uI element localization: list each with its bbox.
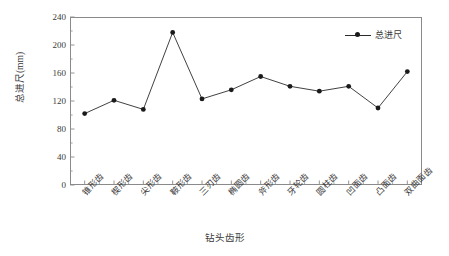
x-axis-tick-label: 三刃齿 (197, 171, 223, 197)
x-axis-tick-label: 凸面齿 (373, 171, 399, 197)
x-axis-tick-label: 尖形齿 (138, 171, 164, 197)
x-axis-tick-label: 斧形齿 (256, 171, 282, 197)
chart-legend: 总进尺 (345, 30, 402, 40)
x-axis-tick-label: 锥形齿 (80, 171, 106, 197)
legend-entry-label: 总进尺 (375, 30, 402, 40)
x-axis-title: 钻头齿形 (0, 233, 449, 244)
legend-line-marker-icon (345, 31, 371, 40)
x-axis-tick-label: 牙轮齿 (285, 171, 311, 197)
x-axis-tick-label: 椭圆齿 (226, 171, 252, 197)
chart-figure: 04080120160200240 总进尺(mm) 锥形齿楔形齿尖形齿鞍形齿三刃… (0, 0, 449, 256)
x-axis-tick-label: 楔形齿 (109, 171, 135, 197)
x-axis-tick-label: 凹面齿 (344, 171, 370, 197)
x-axis-tick-label: 双曲面齿 (402, 165, 435, 198)
x-axis-tick-label: 圆柱齿 (314, 171, 340, 197)
x-axis-tick-label: 鞍形齿 (168, 171, 194, 197)
